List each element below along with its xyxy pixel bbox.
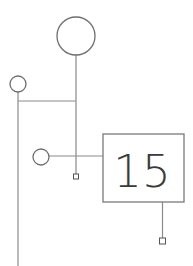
- box-label: 15: [113, 145, 170, 198]
- large-circle-node: [57, 17, 95, 55]
- small-circle-left-node: [10, 76, 26, 92]
- terminal-square-box: [160, 238, 166, 244]
- terminal-square-middle: [74, 174, 79, 179]
- circuit-diagram: 15: [0, 0, 193, 266]
- small-circle-middle-node: [33, 149, 49, 165]
